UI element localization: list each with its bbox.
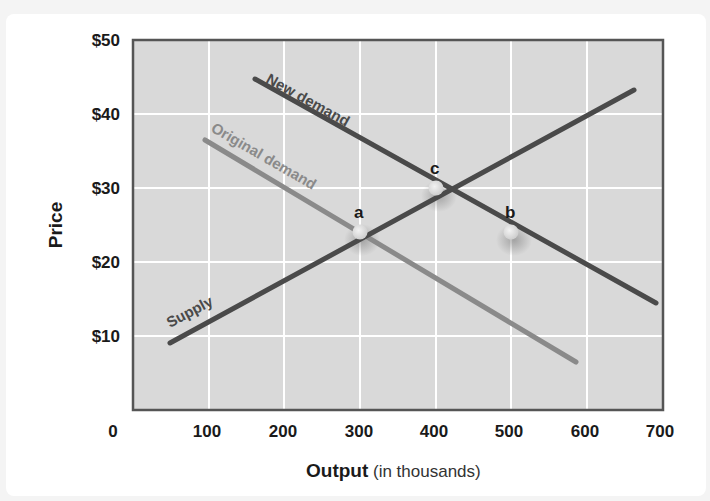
x-tick-300: 300	[345, 422, 373, 441]
x-tick-500: 500	[495, 422, 523, 441]
supply-demand-chart: New demand Original demand Supply a c b …	[0, 0, 710, 501]
x-axis-title-suffix: (in thousands)	[368, 462, 480, 481]
point-b-marker	[504, 225, 519, 240]
x-tick-400: 400	[420, 422, 448, 441]
x-tick-600: 600	[571, 422, 599, 441]
y-tick-10: $10	[92, 327, 120, 346]
point-c-marker	[429, 181, 444, 196]
x-axis-title: Output (in thousands)	[306, 460, 481, 481]
y-tick-30: $30	[92, 179, 120, 198]
point-b-label: b	[505, 203, 515, 222]
x-tick-0: 0	[108, 422, 117, 441]
point-c-label: c	[430, 159, 439, 178]
plot-area	[133, 40, 663, 410]
x-tick-200: 200	[269, 422, 297, 441]
point-a-marker	[353, 225, 368, 240]
y-axis-ticks: $50 $40 $30 $20 $10	[92, 31, 120, 346]
y-tick-50: $50	[92, 31, 120, 50]
point-a-label: a	[354, 203, 364, 222]
y-tick-40: $40	[92, 105, 120, 124]
y-axis-title: Price	[45, 202, 66, 248]
x-tick-100: 100	[193, 422, 221, 441]
y-tick-20: $20	[92, 253, 120, 272]
x-axis-ticks: 0 100 200 300 400 500 600 700	[108, 422, 674, 441]
x-axis-title-main: Output	[306, 460, 369, 481]
x-tick-700: 700	[646, 422, 674, 441]
